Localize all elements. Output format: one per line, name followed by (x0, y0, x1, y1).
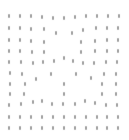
grid-point-marker (9, 116, 10, 119)
grid-point-marker (64, 127, 65, 130)
grid-point-marker (81, 41, 82, 44)
grid-point-marker (96, 27, 97, 30)
grid-point-marker (102, 83, 103, 86)
grid-point-marker (104, 73, 105, 76)
grid-point-marker (53, 116, 54, 119)
grid-point-marker (106, 61, 107, 64)
grid-point-marker (20, 15, 21, 18)
grid-point-marker (97, 15, 98, 18)
grid-point-marker (95, 40, 96, 43)
grid-point-marker (63, 103, 64, 106)
grid-point-marker (116, 73, 117, 76)
grid-point-marker (64, 93, 65, 96)
grid-point-marker (85, 100, 86, 103)
grid-point-marker (42, 16, 43, 19)
grid-point-marker (86, 15, 87, 18)
grid-point-marker (95, 102, 96, 105)
grid-point-marker (75, 16, 76, 19)
grid-point-marker (25, 83, 26, 86)
grid-point-marker (22, 73, 23, 76)
grid-point-marker (32, 51, 33, 54)
grid-point-marker (10, 93, 11, 96)
grid-point-marker (24, 93, 25, 96)
grid-point-marker (20, 116, 21, 119)
grid-point-marker (75, 103, 76, 106)
grid-point-marker (117, 104, 118, 107)
grid-point-marker (56, 32, 57, 35)
grid-point-marker (31, 116, 32, 119)
grid-point-marker (20, 27, 21, 30)
grid-point-marker (64, 57, 65, 60)
grid-point-marker (118, 39, 119, 42)
grid-point-marker (64, 116, 65, 119)
grid-point-marker (106, 104, 107, 107)
grid-point-marker (33, 62, 34, 65)
grid-point-marker (118, 116, 119, 119)
grid-point-marker (43, 61, 44, 64)
grid-point-marker (31, 15, 32, 18)
grid-point-marker (31, 40, 32, 43)
grid-point-marker (21, 103, 22, 106)
grid-point-marker (75, 116, 76, 119)
grid-point-marker (116, 93, 117, 96)
grid-point-marker (42, 127, 43, 130)
grid-point-marker (53, 127, 54, 130)
grid-point-marker (20, 50, 21, 53)
grid-point-marker (31, 127, 32, 130)
grid-point-marker (94, 62, 95, 65)
grid-point-marker (52, 103, 53, 106)
grid-point-marker (86, 116, 87, 119)
grid-point-marker (54, 60, 55, 63)
grid-point-marker (91, 77, 92, 80)
grid-point-marker (119, 15, 120, 18)
grid-point-marker (31, 28, 32, 31)
grid-point-marker (97, 127, 98, 130)
grid-point-marker (108, 15, 109, 18)
grid-point-marker (118, 27, 119, 30)
grid-point-marker (118, 127, 119, 130)
grid-point-marker (10, 72, 11, 75)
grid-point-marker (72, 32, 73, 35)
grid-point-marker (64, 83, 65, 86)
grid-point-marker (9, 61, 10, 64)
grid-point-marker (20, 39, 21, 42)
grid-point-marker (51, 73, 52, 76)
grid-point-marker (73, 60, 74, 63)
grid-point-marker (95, 50, 96, 53)
grid-point-marker (9, 39, 10, 42)
grid-point-marker (83, 29, 84, 32)
grid-point-marker (97, 116, 98, 119)
grid-point-marker (44, 51, 45, 54)
grid-point-marker (76, 73, 77, 76)
grid-point-marker (117, 61, 118, 64)
grid-point-marker (53, 17, 54, 20)
grid-point-marker (9, 27, 10, 30)
grid-point-marker (107, 127, 108, 130)
grid-point-marker (107, 50, 108, 53)
grid-point-marker (9, 15, 10, 18)
grid-point-marker (86, 127, 87, 130)
grid-point-marker (116, 83, 117, 86)
grid-point-marker (9, 104, 10, 107)
grid-point-marker (83, 62, 84, 65)
grid-point-marker (102, 93, 103, 96)
grid-point-marker (81, 51, 82, 54)
grid-point-marker (21, 61, 22, 64)
grid-point-marker (107, 27, 108, 30)
grid-point-marker (20, 127, 21, 130)
grid-point-marker (75, 127, 76, 130)
grid-point-marker (42, 116, 43, 119)
grid-point-marker (44, 41, 45, 44)
grid-point-marker (9, 127, 10, 130)
grid-point-marker (44, 28, 45, 31)
deformed-grid-plot (0, 0, 129, 140)
grid-point-marker (10, 83, 11, 86)
grid-point-marker (9, 50, 10, 53)
grid-point-marker (107, 116, 108, 119)
grid-point-marker (118, 50, 119, 53)
grid-point-marker (36, 78, 37, 81)
grid-point-marker (42, 100, 43, 103)
grid-point-marker (107, 39, 108, 42)
grid-point-marker (64, 17, 65, 20)
grid-point-marker (33, 101, 34, 104)
